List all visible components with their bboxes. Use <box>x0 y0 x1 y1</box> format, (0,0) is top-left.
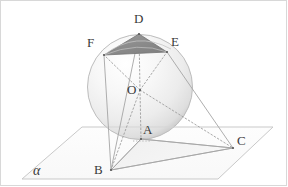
geometry-figure <box>0 0 288 187</box>
vertex-dot-B <box>110 169 112 171</box>
vertex-dot-C <box>232 147 234 149</box>
vertex-dot-D <box>138 33 140 35</box>
point-label-A: A <box>143 123 152 136</box>
plane-label-alpha: α <box>33 164 40 178</box>
point-label-D: D <box>134 12 143 25</box>
vertex-dot-E <box>166 51 168 53</box>
point-label-O: O <box>127 83 136 96</box>
point-label-F: F <box>87 36 94 49</box>
vertex-dot-A <box>140 138 142 140</box>
point-label-C: C <box>237 134 246 147</box>
vertex-dot-O <box>139 89 141 91</box>
diagram-canvas: D E F O A B C α <box>0 0 288 187</box>
point-label-E: E <box>171 35 179 48</box>
point-label-B: B <box>94 163 103 176</box>
vertex-dot-F <box>103 54 105 56</box>
